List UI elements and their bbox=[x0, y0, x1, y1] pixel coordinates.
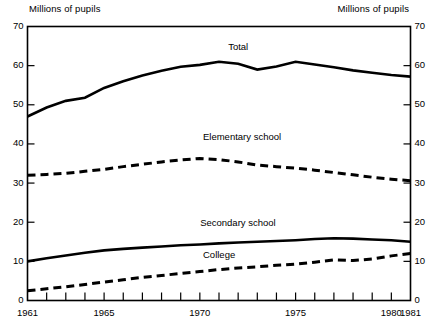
y-axis-tick-label-right: 40 bbox=[415, 137, 438, 148]
x-axis-tick-label: 1965 bbox=[84, 307, 124, 318]
y-axis-tick-label: 20 bbox=[0, 216, 24, 227]
x-axis-tick-label: 1975 bbox=[276, 307, 316, 318]
series-line-elementary-school bbox=[28, 158, 411, 180]
x-axis-tick-label: 1981 bbox=[391, 307, 431, 318]
y-axis-tick-label: 40 bbox=[0, 137, 24, 148]
y-axis-tick-label: 60 bbox=[0, 59, 24, 70]
series-line-total bbox=[28, 62, 411, 117]
series-label-college: College bbox=[203, 249, 235, 260]
series-label-elementary-school: Elementary school bbox=[203, 131, 281, 142]
y-axis-tick-label: 10 bbox=[0, 255, 24, 266]
y-axis-tick-label-right: 0 bbox=[415, 294, 438, 305]
series-label-total: Total bbox=[228, 41, 248, 52]
y-axis-tick-label-right: 20 bbox=[415, 216, 438, 227]
chart-container: Millions of pupils Millions of pupils 00… bbox=[0, 0, 438, 323]
x-axis-tick-label: 1970 bbox=[180, 307, 220, 318]
y-axis-tick-label-right: 50 bbox=[415, 98, 438, 109]
y-axis-tick-label-right: 10 bbox=[415, 255, 438, 266]
y-axis-tick-label-right: 30 bbox=[415, 177, 438, 188]
y-axis-tick-label: 0 bbox=[0, 294, 24, 305]
y-axis-tick-label: 70 bbox=[0, 20, 24, 31]
y-axis-tick-label-right: 70 bbox=[415, 20, 438, 31]
x-axis-tick-label: 1961 bbox=[8, 307, 48, 318]
y-axis-tick-label-right: 60 bbox=[415, 59, 438, 70]
series-label-secondary-school: Secondary school bbox=[200, 217, 276, 228]
plot-area bbox=[0, 0, 438, 323]
y-axis-tick-label: 50 bbox=[0, 98, 24, 109]
y-axis-tick-label: 30 bbox=[0, 177, 24, 188]
